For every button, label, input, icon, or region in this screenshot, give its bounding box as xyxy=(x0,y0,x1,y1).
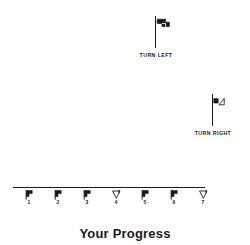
signpost-graphic-right xyxy=(183,94,243,128)
flag-marker-icon xyxy=(164,187,184,198)
progress-marker-7[interactable]: 7 xyxy=(193,187,213,205)
progress-marker-3[interactable]: 3 xyxy=(77,187,97,205)
progress-marker-4[interactable]: 4 xyxy=(106,187,126,205)
flag-marker-icon xyxy=(77,187,97,198)
flag-right-icon xyxy=(213,96,229,114)
flag-marker-icon xyxy=(193,187,213,198)
flag-marker-icon xyxy=(19,187,39,198)
progress-marker-1[interactable]: 1 xyxy=(19,187,39,205)
progress-marker-group: 1 2 3 xyxy=(13,187,205,217)
progress-caption: Your Progress xyxy=(0,226,250,241)
progress-marker-2[interactable]: 2 xyxy=(48,187,68,205)
diagram-canvas: TURN LEFT TURN RIGHT 1 xyxy=(0,0,250,245)
progress-marker-6[interactable]: 6 xyxy=(164,187,184,205)
flag-left-icon xyxy=(156,18,172,36)
signpost-turn-right: TURN RIGHT xyxy=(183,94,243,128)
signpost-graphic-left xyxy=(126,16,186,50)
signpost-caption-left: TURN LEFT xyxy=(126,52,186,58)
signpost-caption-right: TURN RIGHT xyxy=(183,130,243,136)
flag-marker-icon xyxy=(135,187,155,198)
flag-marker-icon xyxy=(106,187,126,198)
progress-marker-5[interactable]: 5 xyxy=(135,187,155,205)
signpost-turn-left: TURN LEFT xyxy=(126,16,186,50)
flag-marker-icon xyxy=(48,187,68,198)
